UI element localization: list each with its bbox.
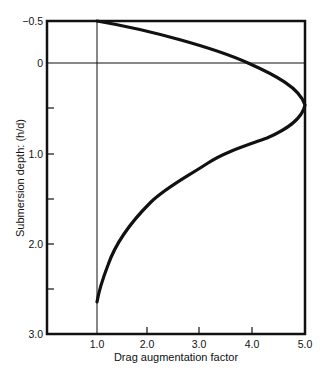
x-tick-label: 2.0 xyxy=(140,338,155,350)
y-tick-label: 3.0 xyxy=(28,328,43,340)
x-tick-label: 1.0 xyxy=(90,338,105,350)
chart: −0.5 0 1.0 2.0 3.0 1.0 2.0 3.0 4.0 5.0 D… xyxy=(0,0,328,377)
y-tick-label: −0.5 xyxy=(22,15,43,27)
x-tick-label: 3.0 xyxy=(192,338,207,350)
plot-frame xyxy=(47,21,305,334)
x-tick-label: 5.0 xyxy=(298,338,313,350)
y-tick-label: 1.0 xyxy=(28,148,43,160)
y-tick-label: 0 xyxy=(37,57,43,69)
x-axis-title: Drag augmentation factor xyxy=(114,351,238,363)
y-tick-label: 2.0 xyxy=(28,238,43,250)
y-axis-title: Submersion depth: (h/d) xyxy=(14,119,26,237)
x-tick-label: 4.0 xyxy=(245,338,260,350)
